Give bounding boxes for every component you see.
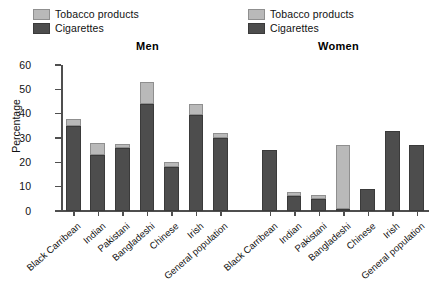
y-axis-tick-label: 20 [9, 157, 31, 167]
x-axis-tick [196, 211, 198, 216]
bar-women-irish [385, 131, 400, 211]
y-axis-tick-label: 30 [9, 133, 31, 143]
bar-segment-cigarettes [213, 138, 228, 211]
bar-segment-cigarettes [287, 196, 302, 211]
stacked-bar-chart: Tobacco products Cigarettes Tobacco prod… [0, 0, 434, 302]
x-axis-tick [122, 211, 124, 216]
bar-men-pakistani [115, 144, 130, 211]
bar-women-pakistani [311, 195, 326, 211]
bar-segment-cigarettes [360, 189, 375, 211]
x-axis-tick [392, 211, 394, 216]
x-axis-tick [147, 211, 149, 216]
legend-item-cigarettes: Cigarettes [248, 22, 354, 34]
bar-men-chinese [164, 162, 179, 211]
bar-segment-cigarettes [90, 155, 105, 211]
legend-label-tobacco-products: Tobacco products [270, 9, 354, 20]
x-axis-tick [270, 211, 272, 216]
x-axis-tick [171, 211, 173, 216]
bar-segment-tobacco-products [189, 104, 204, 115]
legend-item-tobacco-products: Tobacco products [248, 8, 354, 20]
legend-label-cigarettes: Cigarettes [55, 23, 104, 34]
square-swatch-icon [248, 9, 265, 20]
bar-segment-tobacco-products [90, 143, 105, 155]
bar-segment-tobacco-products [336, 145, 351, 208]
panel-title-men: Men [136, 40, 159, 52]
bar-segment-cigarettes [140, 104, 155, 211]
bar-men-indian [90, 143, 105, 211]
bar-women-bangladeshi [336, 145, 351, 211]
x-axis-tick [220, 211, 222, 216]
bar-women-general-population [409, 145, 424, 211]
panel-title-women: Women [318, 40, 359, 52]
bar-women-chinese [360, 189, 375, 211]
bar-segment-cigarettes [385, 131, 400, 211]
y-axis-tick-label: 10 [9, 181, 31, 191]
x-axis-tick [294, 211, 296, 216]
bar-segment-cigarettes [262, 150, 277, 211]
x-axis-tick [319, 211, 321, 216]
legend-label-cigarettes: Cigarettes [270, 23, 319, 34]
legend-women: Tobacco products Cigarettes [248, 8, 354, 34]
bar-segment-cigarettes [66, 126, 81, 211]
y-axis-tick-label: 40 [9, 108, 31, 118]
y-axis-tick-label: 50 [9, 84, 31, 94]
bar-segment-cigarettes [189, 115, 204, 211]
square-swatch-icon [248, 23, 265, 34]
y-axis-tick-label: 60 [9, 60, 31, 70]
bar-segment-cigarettes [164, 167, 179, 211]
x-axis-tick [417, 211, 419, 216]
x-axis-tick [343, 211, 345, 216]
plot-area [61, 65, 429, 211]
x-axis-tick [368, 211, 370, 216]
bar-men-general-population [213, 133, 228, 211]
bar-segment-cigarettes [311, 199, 326, 211]
legend-label-tobacco-products: Tobacco products [55, 9, 139, 20]
bar-men-black-carribean [66, 119, 81, 211]
bar-women-black-carribean [262, 150, 277, 211]
bar-segment-cigarettes [409, 145, 424, 211]
y-axis-ticks: 0102030405060 [0, 0, 61, 302]
x-axis-tick [98, 211, 100, 216]
bar-women-indian [287, 192, 302, 211]
x-axis-tick [73, 211, 75, 216]
bar-segment-cigarettes [115, 148, 130, 211]
bar-segment-tobacco-products [66, 119, 81, 126]
bar-men-irish [189, 104, 204, 211]
y-axis-tick-label: 0 [9, 206, 31, 216]
bar-segment-tobacco-products [140, 82, 155, 104]
bar-men-bangladeshi [140, 82, 155, 211]
